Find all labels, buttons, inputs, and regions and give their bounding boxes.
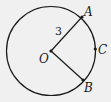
label-c: C: [98, 43, 107, 57]
point-c: [94, 47, 97, 50]
label-b: B: [83, 81, 93, 95]
label-o: O: [39, 52, 49, 66]
radius-ob: [51, 51, 83, 80]
radius-label: 3: [55, 25, 62, 38]
circle-diagram: A B C O 3: [0, 0, 111, 102]
point-o: [49, 49, 52, 52]
label-a: A: [83, 5, 93, 19]
